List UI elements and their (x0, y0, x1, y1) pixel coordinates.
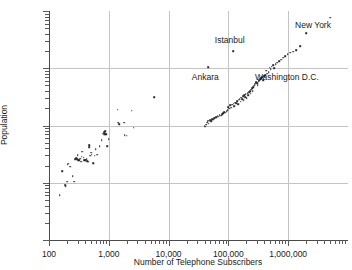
y-tick-minor (45, 77, 49, 78)
x-tick-minor (275, 240, 276, 244)
x-tick-minor (342, 240, 343, 244)
data-point (274, 67, 276, 69)
x-tick-minor (226, 240, 227, 244)
data-point (79, 158, 81, 160)
x-tick-label: 1,000 (98, 249, 119, 259)
data-point (91, 154, 93, 156)
y-tick-minor (45, 223, 49, 224)
data-point (207, 66, 209, 68)
data-point (278, 61, 280, 63)
y-tick-minor (45, 166, 49, 167)
data-point (287, 53, 289, 55)
data-point (89, 146, 91, 148)
data-point (105, 134, 107, 136)
x-tick-minor (103, 240, 104, 244)
data-point (105, 131, 107, 133)
y-axis-ticks: 1,00010,000100,0001,000,00010,000,000 (49, 11, 50, 240)
y-tick-minor (45, 134, 49, 135)
data-point (80, 161, 82, 163)
data-point (59, 194, 61, 196)
data-point (106, 145, 108, 147)
data-point (95, 148, 97, 150)
data-point (292, 51, 294, 53)
y-tick-minor (45, 85, 49, 86)
y-tick-minor (45, 71, 49, 72)
y-tick-minor (45, 213, 49, 214)
data-point (77, 154, 79, 156)
x-tick-minor (246, 240, 247, 244)
data-point (277, 62, 279, 64)
x-tick-minor (106, 240, 107, 244)
y-axis-title: Population (0, 105, 9, 145)
x-tick-minor (127, 240, 128, 244)
data-point (117, 109, 119, 111)
y-tick-minor (45, 51, 49, 52)
data-point (220, 115, 222, 117)
y-tick-minor (45, 81, 49, 82)
data-point (232, 50, 234, 52)
y-tick-minor (45, 155, 49, 156)
data-point (94, 155, 96, 157)
data-point (131, 110, 133, 112)
x-tick-minor (137, 240, 138, 244)
data-point (243, 99, 245, 101)
x-tick-major (49, 240, 50, 246)
data-point (101, 140, 103, 142)
x-tick-minor (306, 240, 307, 244)
data-point (289, 52, 291, 54)
gridline-vertical (109, 11, 110, 240)
x-tick-minor (187, 240, 188, 244)
data-point (119, 123, 121, 125)
x-tick-minor (257, 240, 258, 244)
data-point (257, 85, 259, 87)
data-point (285, 55, 287, 57)
x-tick-minor (67, 240, 68, 244)
y-tick-minor (45, 206, 49, 207)
y-tick-minor (45, 24, 49, 25)
data-point (108, 138, 110, 140)
y-tick-minor (45, 192, 49, 193)
data-point (234, 105, 236, 107)
x-tick-minor (91, 240, 92, 244)
annotation-label: Ankara (192, 72, 219, 82)
y-tick-minor (45, 20, 49, 21)
y-tick-major (43, 126, 49, 127)
x-tick-minor (345, 240, 346, 244)
data-point (252, 90, 254, 92)
data-point (81, 151, 83, 153)
y-tick-minor (45, 143, 49, 144)
data-point (88, 161, 90, 163)
data-point (208, 123, 210, 125)
x-tick-minor (317, 240, 318, 244)
x-tick-minor (163, 240, 164, 244)
data-point (83, 157, 85, 159)
x-axis-ticks: 1001,00010,000100,0001,000,000 (49, 240, 348, 241)
y-tick-minor (45, 188, 49, 189)
y-tick-minor (45, 200, 49, 201)
data-point (93, 163, 95, 165)
x-tick-label: 100 (42, 249, 56, 259)
x-tick-minor (78, 240, 79, 244)
annotation-label: New York (295, 20, 331, 30)
x-tick-minor (159, 240, 160, 244)
data-point (280, 59, 282, 61)
x-tick-minor (339, 240, 340, 244)
gridline-horizontal (49, 68, 348, 69)
x-tick-label: 1,000,000 (269, 249, 307, 259)
y-tick-major (43, 183, 49, 184)
y-tick-minor (45, 138, 49, 139)
gridline-horizontal (49, 183, 348, 184)
data-point (73, 181, 75, 183)
y-tick-major (43, 11, 49, 12)
data-point (68, 163, 70, 165)
y-tick-minor (45, 28, 49, 29)
y-tick-minor (45, 91, 49, 92)
x-tick-minor (197, 240, 198, 244)
x-axis-title: Number of Telephone Subscribers (134, 257, 262, 267)
plot-area: New YorkIstanbulAnkaraWashington D.C. (49, 11, 348, 240)
x-tick-minor (100, 240, 101, 244)
x-tick-minor (166, 240, 167, 244)
y-tick-minor (45, 131, 49, 132)
x-tick-minor (285, 240, 286, 244)
data-point (126, 135, 128, 137)
